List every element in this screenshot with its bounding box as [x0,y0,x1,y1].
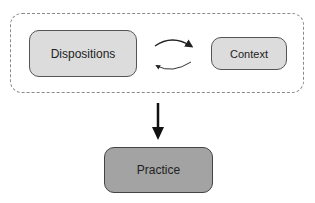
curved-arrow-left-icon [157,62,191,69]
down-arrowhead-icon [152,127,164,140]
arrows-layer [0,0,315,203]
curved-arrow-right-icon [155,40,191,46]
